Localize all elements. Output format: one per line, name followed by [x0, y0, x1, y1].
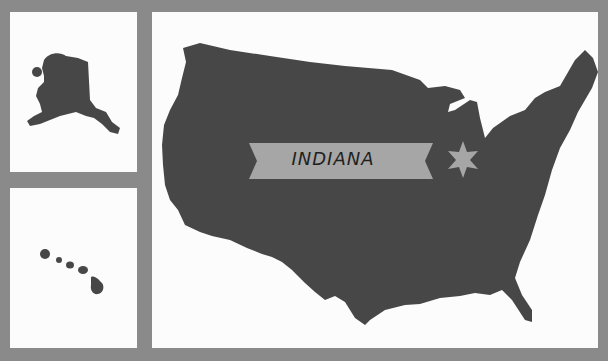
contiguous-us-shape: [162, 43, 598, 325]
alaska-island: [32, 67, 42, 77]
map-canvas: [0, 0, 608, 361]
hawaii-island: [91, 277, 104, 295]
hawaii-island: [56, 257, 62, 263]
hawaii-island: [78, 266, 88, 274]
alaska-shape: [27, 53, 120, 134]
hawaii-island: [66, 262, 74, 269]
hawaii-island: [40, 249, 50, 259]
state-name-label: INDIANA: [258, 147, 408, 171]
